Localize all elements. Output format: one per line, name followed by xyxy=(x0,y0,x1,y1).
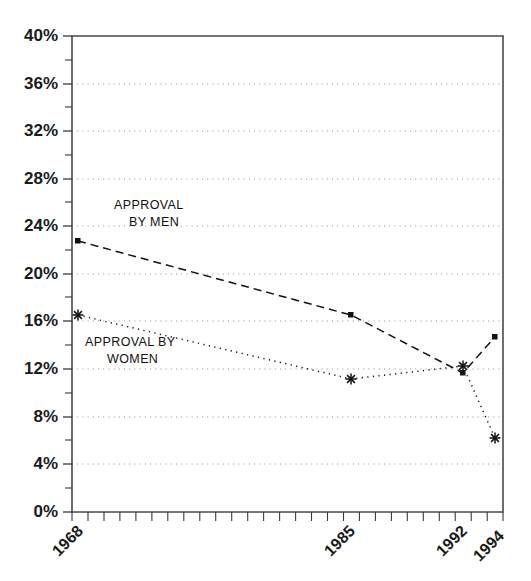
annotation-women-line2: WOMEN xyxy=(107,352,158,366)
y-axis-ticks xyxy=(63,36,72,512)
y-tick-label-8: 8% xyxy=(33,407,58,426)
y-axis-labels: 40% 36% 32% 28% 24% 20% 16% 12% 8% 4% 0% xyxy=(24,26,58,521)
y-tick-label-12: 12% xyxy=(24,359,58,378)
y-tick-label-16: 16% xyxy=(24,311,58,330)
approval-line-chart: 40% 36% 32% 28% 24% 20% 16% 12% 8% 4% 0% xyxy=(0,0,531,581)
men-marker-1985 xyxy=(348,312,354,318)
women-marker-1968 xyxy=(73,310,84,321)
women-marker-1985 xyxy=(346,374,357,385)
gridlines xyxy=(72,84,503,464)
men-marker-1994 xyxy=(492,334,498,340)
series-approval-by-women xyxy=(73,310,501,444)
y-tick-label-40: 40% xyxy=(24,26,58,45)
women-line xyxy=(78,315,495,438)
chart-container: 40% 36% 32% 28% 24% 20% 16% 12% 8% 4% 0% xyxy=(0,0,531,581)
annotation-women-line1: APPROVAL BY xyxy=(85,335,176,349)
y-tick-label-4: 4% xyxy=(33,454,58,473)
x-tick-label-1985: 1985 xyxy=(321,522,358,559)
annotation-men-line2: BY MEN xyxy=(129,215,179,229)
y-tick-label-36: 36% xyxy=(24,74,58,93)
annotation-men-line1: APPROVAL xyxy=(114,198,184,212)
x-axis-ticks xyxy=(72,512,503,521)
y-tick-label-0: 0% xyxy=(33,502,58,521)
men-marker-1968 xyxy=(75,238,81,244)
x-axis-labels: 1968 1985 1992 1994 xyxy=(49,522,507,564)
y-tick-label-24: 24% xyxy=(24,216,58,235)
annotation-approval-by-women: APPROVAL BY WOMEN xyxy=(85,335,176,366)
x-tick-label-1968: 1968 xyxy=(49,522,86,559)
x-tick-label-1992: 1992 xyxy=(433,522,470,559)
women-marker-1994 xyxy=(490,433,501,444)
y-tick-label-28: 28% xyxy=(24,169,58,188)
annotation-approval-by-men: APPROVAL BY MEN xyxy=(114,198,184,229)
plot-frame xyxy=(72,36,503,512)
women-marker-1992 xyxy=(458,361,469,372)
y-tick-label-20: 20% xyxy=(24,264,58,283)
y-tick-label-32: 32% xyxy=(24,121,58,140)
x-tick-label-1994: 1994 xyxy=(470,527,507,564)
